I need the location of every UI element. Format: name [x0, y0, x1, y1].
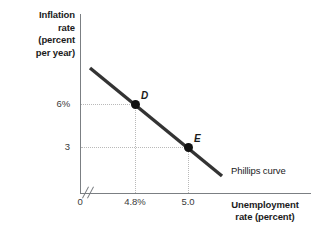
- phillips-curve-line: [0, 0, 323, 230]
- x-axis-title-line-1: Unemployment: [210, 199, 320, 211]
- x-axis-title: Unemployment rate (percent): [210, 199, 320, 224]
- data-point-d: [131, 100, 140, 109]
- x-axis-title-line-2: rate (percent): [210, 211, 320, 223]
- data-point-e: [184, 143, 193, 152]
- y-tick-label-6: 6%: [36, 98, 70, 109]
- phillips-curve-figure: Inflation rate (percent per year) 6% 3 0…: [0, 0, 323, 230]
- x-tick-label-5-0: 5.0: [165, 196, 211, 207]
- x-tick-label-4-8: 4.8%: [112, 196, 158, 207]
- y-tick-label-3: 3: [36, 141, 70, 152]
- phillips-curve-annotation: Phillips curve: [231, 165, 286, 176]
- data-point-d-label: D: [141, 90, 148, 101]
- data-point-e-label: E: [194, 133, 201, 144]
- origin-label: 0: [57, 196, 103, 207]
